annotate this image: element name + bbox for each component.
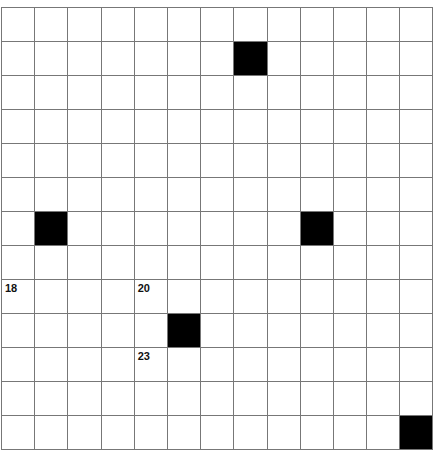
grid-cell[interactable] <box>168 178 201 212</box>
grid-cell[interactable] <box>168 110 201 144</box>
grid-cell[interactable] <box>68 178 101 212</box>
grid-cell[interactable] <box>268 280 301 314</box>
grid-cell[interactable] <box>268 110 301 144</box>
grid-cell[interactable] <box>234 314 267 348</box>
grid-cell[interactable]: 18 <box>2 280 35 314</box>
grid-cell[interactable] <box>35 280 68 314</box>
grid-cell[interactable] <box>135 8 168 42</box>
grid-cell[interactable] <box>168 42 201 76</box>
grid-cell[interactable] <box>367 212 400 246</box>
grid-cell[interactable] <box>135 144 168 178</box>
grid-cell[interactable] <box>135 110 168 144</box>
grid-cell[interactable] <box>201 212 234 246</box>
grid-cell[interactable] <box>102 76 135 110</box>
grid-cell[interactable] <box>68 314 101 348</box>
grid-cell[interactable] <box>301 110 334 144</box>
grid-cell[interactable] <box>168 416 201 450</box>
grid-cell[interactable] <box>68 42 101 76</box>
grid-cell[interactable] <box>201 314 234 348</box>
grid-cell[interactable] <box>367 280 400 314</box>
grid-cell[interactable] <box>35 416 68 450</box>
grid-cell[interactable] <box>301 76 334 110</box>
grid-cell[interactable] <box>268 348 301 382</box>
grid-cell[interactable] <box>35 144 68 178</box>
grid-cell[interactable] <box>2 178 35 212</box>
grid-cell[interactable] <box>367 144 400 178</box>
grid-cell[interactable] <box>268 246 301 280</box>
grid-cell[interactable] <box>201 348 234 382</box>
grid-cell[interactable] <box>2 42 35 76</box>
grid-cell[interactable] <box>68 144 101 178</box>
grid-cell[interactable] <box>268 382 301 416</box>
grid-cell[interactable] <box>400 382 433 416</box>
grid-cell[interactable] <box>35 348 68 382</box>
grid-cell[interactable] <box>35 110 68 144</box>
grid-cell[interactable] <box>334 348 367 382</box>
grid-cell[interactable] <box>201 42 234 76</box>
grid-cell[interactable] <box>102 382 135 416</box>
grid-cell[interactable] <box>68 212 101 246</box>
grid-cell[interactable] <box>334 382 367 416</box>
grid-cell[interactable] <box>168 76 201 110</box>
grid-cell[interactable] <box>2 144 35 178</box>
grid-cell[interactable] <box>334 314 367 348</box>
grid-cell[interactable] <box>301 348 334 382</box>
grid-cell[interactable] <box>334 212 367 246</box>
grid-cell[interactable] <box>168 144 201 178</box>
grid-cell[interactable] <box>334 110 367 144</box>
grid-cell[interactable] <box>168 8 201 42</box>
grid-cell[interactable] <box>301 246 334 280</box>
grid-cell[interactable]: 20 <box>135 280 168 314</box>
grid-cell[interactable] <box>367 246 400 280</box>
grid-cell[interactable] <box>168 348 201 382</box>
grid-cell[interactable] <box>68 382 101 416</box>
grid-cell[interactable] <box>135 314 168 348</box>
grid-cell[interactable] <box>168 246 201 280</box>
grid-cell[interactable] <box>2 314 35 348</box>
grid-cell[interactable] <box>268 76 301 110</box>
grid-cell[interactable] <box>2 416 35 450</box>
grid-cell[interactable] <box>201 76 234 110</box>
grid-cell[interactable] <box>400 246 433 280</box>
grid-cell[interactable] <box>367 314 400 348</box>
grid-cell[interactable] <box>301 416 334 450</box>
grid-cell[interactable] <box>102 110 135 144</box>
grid-cell[interactable] <box>35 76 68 110</box>
grid-cell[interactable] <box>400 76 433 110</box>
grid-cell[interactable] <box>201 246 234 280</box>
grid-cell[interactable] <box>268 416 301 450</box>
grid-cell[interactable] <box>2 76 35 110</box>
grid-cell[interactable] <box>201 144 234 178</box>
grid-cell[interactable] <box>301 178 334 212</box>
grid-cell[interactable] <box>268 314 301 348</box>
grid-cell[interactable] <box>301 314 334 348</box>
grid-cell[interactable] <box>68 76 101 110</box>
grid-cell[interactable] <box>35 42 68 76</box>
grid-cell[interactable] <box>268 144 301 178</box>
grid-cell[interactable] <box>135 76 168 110</box>
grid-cell[interactable] <box>35 246 68 280</box>
grid-cell[interactable] <box>201 178 234 212</box>
grid-cell[interactable] <box>334 178 367 212</box>
grid-cell[interactable] <box>102 314 135 348</box>
grid-cell[interactable] <box>400 348 433 382</box>
grid-cell[interactable] <box>201 110 234 144</box>
grid-cell[interactable] <box>367 382 400 416</box>
grid-cell[interactable] <box>234 382 267 416</box>
grid-cell[interactable] <box>135 246 168 280</box>
grid-cell[interactable] <box>367 110 400 144</box>
grid-cell[interactable] <box>68 348 101 382</box>
grid-cell[interactable] <box>2 348 35 382</box>
grid-cell[interactable] <box>234 76 267 110</box>
grid-cell[interactable] <box>400 212 433 246</box>
grid-cell[interactable] <box>400 144 433 178</box>
grid-cell[interactable] <box>334 144 367 178</box>
grid-cell[interactable] <box>135 212 168 246</box>
grid-cell[interactable] <box>234 416 267 450</box>
grid-cell[interactable] <box>268 212 301 246</box>
grid-cell[interactable] <box>400 110 433 144</box>
grid-cell[interactable] <box>201 8 234 42</box>
grid-cell[interactable] <box>102 144 135 178</box>
grid-cell[interactable] <box>400 8 433 42</box>
grid-cell[interactable] <box>367 178 400 212</box>
